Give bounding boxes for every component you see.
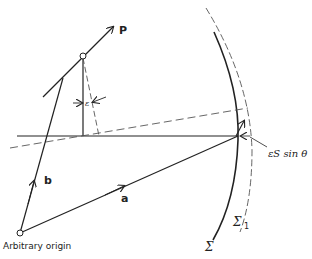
label-origin: Arbitrary origin <box>3 241 71 251</box>
label-epsilon-s-sin-theta: εS sin θ <box>268 148 307 159</box>
point-p-marker <box>80 53 86 59</box>
distance-leader <box>250 137 267 147</box>
label-sigma1-subscript: 1 <box>244 222 249 231</box>
diagram-canvas: P b a Arbitrary origin ε εS sin θ Σ Σ 1 <box>0 0 312 259</box>
vector-b <box>20 78 63 233</box>
dashed-perpendicular <box>83 58 99 136</box>
label-sigma: Σ <box>204 240 214 254</box>
vector-b-arrow <box>28 181 34 204</box>
line-p <box>43 27 113 97</box>
sigma1-surface <box>206 8 252 232</box>
label-epsilon: ε <box>85 99 89 108</box>
origin-marker <box>17 230 23 236</box>
epsilon-arrow-right <box>93 97 106 102</box>
label-sigma1: Σ <box>232 215 242 229</box>
label-a: a <box>121 192 128 205</box>
vector-a <box>20 136 238 233</box>
label-p: P <box>119 24 127 37</box>
label-b: b <box>44 174 52 187</box>
